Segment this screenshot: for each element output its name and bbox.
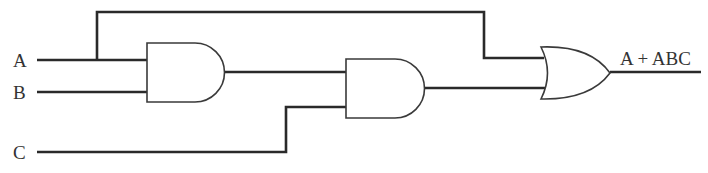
or-gate xyxy=(541,47,610,99)
output-label: A + ABC xyxy=(620,48,691,69)
and-gate-2 xyxy=(346,59,425,118)
input-label-c: C xyxy=(13,142,26,163)
input-label-b: B xyxy=(13,82,26,103)
input-label-a: A xyxy=(13,50,27,71)
wire-c-to-and2 xyxy=(37,107,347,152)
and-gate-1 xyxy=(147,43,224,102)
logic-circuit-diagram: A B C A + ABC xyxy=(0,0,708,173)
